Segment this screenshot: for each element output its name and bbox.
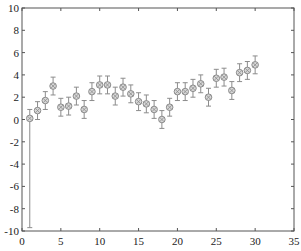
- data-point: [42, 92, 49, 110]
- x-axis-tick-labels: 05101520253035: [19, 235, 300, 247]
- x-tick-label: 5: [58, 235, 64, 247]
- data-points: [26, 56, 258, 228]
- data-point: [81, 101, 88, 119]
- data-point: [89, 83, 96, 101]
- x-tick-label: 10: [94, 235, 106, 247]
- data-point: [213, 69, 220, 87]
- data-point: [73, 87, 80, 105]
- data-point: [221, 68, 228, 86]
- data-point: [58, 98, 65, 116]
- data-point: [135, 93, 142, 111]
- data-point: [166, 98, 173, 116]
- y-tick-label: -4: [10, 158, 20, 170]
- y-tick-label: 4: [14, 69, 20, 81]
- data-point: [104, 76, 111, 94]
- x-tick-label: 15: [133, 235, 145, 247]
- data-point: [205, 88, 212, 106]
- data-point: [229, 82, 236, 100]
- y-tick-label: 0: [14, 114, 20, 126]
- y-tick-label: -2: [10, 136, 19, 148]
- x-tick-label: 35: [289, 235, 301, 247]
- y-tick-label: 2: [14, 91, 20, 103]
- data-point: [96, 76, 103, 94]
- data-point: [112, 87, 119, 105]
- y-axis-tick-labels: -10-8-6-4-20246810: [4, 2, 19, 237]
- data-point: [151, 101, 158, 119]
- data-point: [34, 102, 41, 120]
- x-tick-label: 20: [172, 235, 184, 247]
- data-point: [26, 109, 33, 227]
- data-point: [65, 97, 72, 115]
- data-point: [197, 75, 204, 93]
- x-tick-label: 0: [19, 235, 25, 247]
- errorbar-chart: 05101520253035 -10-8-6-4-20246810: [0, 0, 300, 251]
- data-point: [190, 79, 197, 97]
- y-tick-label: 6: [14, 47, 20, 59]
- data-point: [252, 56, 259, 74]
- data-point: [159, 111, 166, 129]
- x-tick-label: 30: [250, 235, 262, 247]
- data-point: [244, 62, 251, 80]
- y-tick-label: 10: [8, 2, 20, 14]
- data-point: [50, 77, 57, 95]
- y-tick-label: 8: [14, 24, 20, 36]
- data-point: [120, 78, 127, 96]
- data-point: [143, 95, 150, 113]
- y-tick-label: -10: [4, 225, 19, 237]
- data-point: [182, 83, 189, 101]
- data-point: [128, 85, 135, 103]
- axis-ticks: [22, 8, 294, 231]
- data-point: [174, 83, 181, 101]
- plot-frame: [22, 8, 294, 231]
- x-tick-label: 25: [211, 235, 223, 247]
- y-tick-label: -8: [10, 203, 20, 215]
- data-point: [236, 64, 243, 82]
- y-tick-label: -6: [10, 180, 20, 192]
